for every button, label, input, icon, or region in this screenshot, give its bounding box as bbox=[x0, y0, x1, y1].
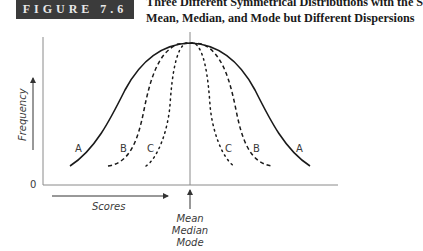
curve-label-c-right: C bbox=[225, 143, 232, 154]
annotation-median: Median bbox=[172, 225, 208, 236]
curve-label-b-right: B bbox=[253, 143, 260, 154]
annotation-mean: Mean bbox=[176, 213, 203, 224]
y-origin-label: 0 bbox=[30, 179, 36, 190]
curve-label-c-left: C bbox=[147, 143, 154, 154]
annotation-mode: Mode bbox=[176, 237, 203, 248]
curve-label-b-left: B bbox=[120, 143, 127, 154]
y-axis-label: Frequency bbox=[17, 87, 28, 141]
curve-label-a-right: A bbox=[296, 143, 303, 154]
curve-label-a-left: A bbox=[75, 143, 82, 154]
x-axis-label: Scores bbox=[92, 201, 125, 212]
